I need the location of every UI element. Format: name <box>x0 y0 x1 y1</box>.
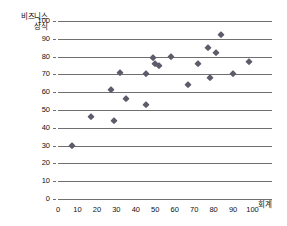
data-point <box>111 117 119 125</box>
gridline-y-20 <box>58 163 272 164</box>
gridline-y-80 <box>58 57 272 58</box>
x-axis-title: 회계 <box>258 200 272 209</box>
gridline-y-40 <box>58 128 272 129</box>
data-point <box>245 58 253 66</box>
gridline-y-10 <box>58 181 272 182</box>
data-point <box>155 62 163 70</box>
x-tick-label-70: 70 <box>185 206 203 214</box>
gridline-y-60 <box>58 92 272 93</box>
gridline-y-70 <box>58 74 272 75</box>
x-tick-label-90: 90 <box>224 206 242 214</box>
y-tick-mark-70 <box>53 74 56 75</box>
data-point <box>142 101 150 109</box>
y-tick-mark-0 <box>53 199 56 200</box>
data-point <box>122 96 130 104</box>
y-tick-mark-40 <box>53 128 56 129</box>
y-tick-mark-100 <box>53 21 56 22</box>
y-tick-label-30: 30 <box>30 142 50 150</box>
gridline-y-30 <box>58 146 272 147</box>
y-tick-mark-80 <box>53 57 56 58</box>
data-point <box>204 44 212 52</box>
y-tick-label-10: 10 <box>30 177 50 185</box>
y-tick-mark-60 <box>53 92 56 93</box>
y-tick-mark-30 <box>53 146 56 147</box>
x-tick-label-20: 20 <box>88 206 106 214</box>
data-point <box>87 113 95 121</box>
x-tick-label-40: 40 <box>127 206 145 214</box>
data-point <box>185 81 193 89</box>
y-tick-mark-10 <box>53 181 56 182</box>
x-tick-label-50: 50 <box>146 206 164 214</box>
y-tick-label-40: 40 <box>30 124 50 132</box>
gridline-y-50 <box>58 110 272 111</box>
data-point <box>142 71 150 79</box>
x-tick-label-30: 30 <box>107 206 125 214</box>
y-tick-label-60: 60 <box>30 88 50 96</box>
y-tick-mark-90 <box>53 39 56 40</box>
plot-area <box>58 14 272 200</box>
data-point <box>167 53 175 61</box>
gridline-y-0 <box>58 199 272 200</box>
y-tick-mark-20 <box>53 163 56 164</box>
gridline-y-100 <box>58 21 272 22</box>
y-tick-label-0: 0 <box>30 195 50 203</box>
x-tick-label-60: 60 <box>166 206 184 214</box>
y-tick-label-70: 70 <box>30 70 50 78</box>
data-point <box>229 71 237 79</box>
x-tick-label-10: 10 <box>68 206 86 214</box>
y-tick-label-50: 50 <box>30 106 50 114</box>
data-point <box>68 142 76 150</box>
y-tick-label-20: 20 <box>30 159 50 167</box>
gridline-y-90 <box>58 39 272 40</box>
y-tick-label-80: 80 <box>30 53 50 61</box>
y-tick-label-100: 100 <box>30 17 50 25</box>
y-tick-label-90: 90 <box>30 35 50 43</box>
x-tick-label-0: 0 <box>49 206 67 214</box>
x-tick-label-80: 80 <box>205 206 223 214</box>
y-tick-mark-50 <box>53 110 56 111</box>
data-point <box>194 60 202 68</box>
scatter-chart: 비즈니스 상식 0102030405060708090100 010203040… <box>0 0 287 226</box>
